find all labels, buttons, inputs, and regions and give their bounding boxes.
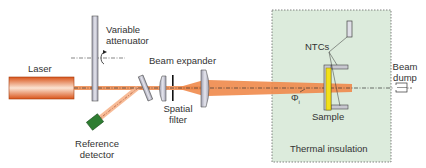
ntc-ambient — [347, 21, 352, 37]
label-beam-expander: Beam expander — [149, 55, 216, 66]
label-beam-dump-2: dump — [390, 72, 420, 83]
expander-lens-small — [160, 76, 167, 101]
phi-subscript: i — [299, 99, 300, 105]
label-variable-attenuator-1: Variable — [106, 24, 140, 35]
label-reference-detector-2: detector — [72, 149, 122, 160]
variable-attenuator — [92, 16, 98, 101]
label-laser: Laser — [28, 63, 52, 74]
laser-body — [9, 77, 74, 99]
label-phi: Φi — [291, 92, 300, 108]
ntc-top-holder — [331, 65, 348, 69]
sample — [326, 68, 331, 110]
spatial-filter-bottom — [172, 90, 174, 101]
label-thermal-insulation: Thermal insulation — [290, 143, 368, 154]
phi-symbol: Φ — [291, 92, 299, 103]
label-variable-attenuator-2: attenuator — [106, 35, 149, 46]
spatial-filter-top — [172, 75, 174, 86]
label-spatial-filter-2: filter — [160, 114, 196, 125]
label-ntcs: NTCs — [305, 41, 329, 52]
expander-lens-large — [201, 70, 209, 107]
label-reference-detector-1: Reference — [72, 138, 122, 149]
label-sample: Sample — [312, 111, 344, 122]
label-beam-dump-1: Beam — [390, 61, 420, 72]
ntc-bottom-holder — [331, 105, 348, 109]
label-spatial-filter-1: Spatial — [160, 103, 196, 114]
